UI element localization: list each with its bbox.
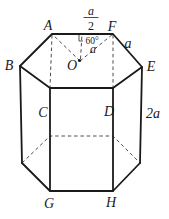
vertex-label-b: B: [5, 58, 14, 73]
segment-o-to-midpoint-af: [81, 34, 83, 59]
vertex-labels-group: A F B E C D G H O: [5, 18, 156, 211]
fraction-denominator: 2: [88, 19, 94, 33]
lateral-edge-b: [20, 66, 22, 163]
edge-fe-label: a: [125, 36, 132, 51]
lateral-edge-e: [140, 67, 142, 163]
height-label-2a: 2a: [146, 106, 160, 121]
bottom-front-edges: [22, 163, 140, 191]
segment-of-label: a: [90, 42, 96, 56]
vertex-label-g: G: [44, 196, 54, 211]
segment-o-to-a: [52, 34, 80, 61]
hidden-edges-group: [22, 34, 140, 163]
vertex-label-a: A: [43, 18, 53, 33]
vertex-label-e: E: [146, 59, 156, 74]
edge-label-d: D: [103, 104, 114, 119]
center-point-dot: [78, 59, 81, 62]
fraction-numerator: a: [88, 4, 94, 18]
edge-label-c: C: [38, 105, 48, 120]
hexagonal-prism-figure: A F B E C D G H O a 2 60° a a 2a: [0, 0, 169, 219]
bottom-back-hidden-edges: [22, 136, 140, 163]
vertex-label-f: F: [107, 19, 117, 34]
center-label-o: O: [67, 58, 77, 73]
right-angle-mark: [79, 35, 83, 41]
prism-diagram-canvas: A F B E C D G H O a 2 60° a a 2a: [0, 0, 169, 219]
vertex-label-h: H: [105, 195, 117, 210]
hidden-lateral-edge-below-a: [50, 35, 52, 88]
